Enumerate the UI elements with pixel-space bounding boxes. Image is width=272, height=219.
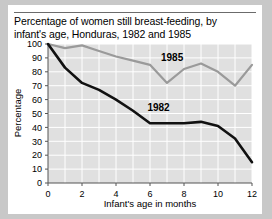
x-tick-label: 12 [247,189,257,199]
x-axis-title: Infant's age in months [104,198,197,209]
y-axis-title: Percentage [12,89,23,138]
series-label-1982: 1982 [147,102,170,113]
series-label-1985: 1985 [161,52,184,63]
y-tick-label: 90 [32,53,42,63]
x-tick-label: 2 [79,189,84,199]
y-tick-label: 30 [32,137,42,147]
y-tick-label: 50 [32,109,42,119]
y-tick-label: 40 [32,123,42,133]
x-tick-label: 0 [45,189,50,199]
y-tick-label: 70 [32,81,42,91]
x-tick-label: 10 [213,189,223,199]
y-tick-label: 10 [32,164,42,174]
chart-plot-area: 0102030405060708090100 024681012 1985198… [8,5,262,214]
y-axis: 0102030405060708090100 [27,39,48,188]
figure-card: Percentage of women still breast-feeding… [8,5,262,214]
y-tick-label: 100 [27,39,42,49]
y-tick-label: 20 [32,150,42,160]
line-chart: 0102030405060708090100 024681012 1985198… [8,5,262,214]
y-tick-label: 60 [32,95,42,105]
x-axis: 024681012 [45,183,257,199]
y-tick-label: 0 [37,178,42,188]
y-tick-label: 80 [32,67,42,77]
